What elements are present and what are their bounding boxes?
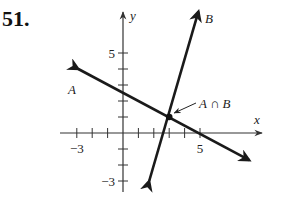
labels: A ∩ BAB	[67, 11, 231, 113]
series-label-A: A	[67, 82, 76, 97]
y-axis-label: y	[128, 8, 136, 23]
intersection-label: A ∩ B	[198, 96, 231, 111]
line-B	[149, 11, 198, 181]
axes: −355−3xy	[60, 8, 262, 192]
intersection-point	[166, 114, 173, 121]
x-axis-label: x	[253, 112, 260, 127]
problem-number: 51.	[2, 6, 30, 31]
y-tick-label: 5	[109, 46, 116, 61]
series-label-B: B	[205, 11, 213, 26]
x-tick-label: 5	[197, 141, 204, 156]
intersection-pointer	[174, 103, 196, 113]
chart: 51. −355−3xy A ∩ BAB	[0, 0, 283, 199]
line-A	[78, 69, 249, 160]
x-tick-label: −3	[70, 141, 84, 156]
y-tick-label: −3	[101, 174, 115, 189]
